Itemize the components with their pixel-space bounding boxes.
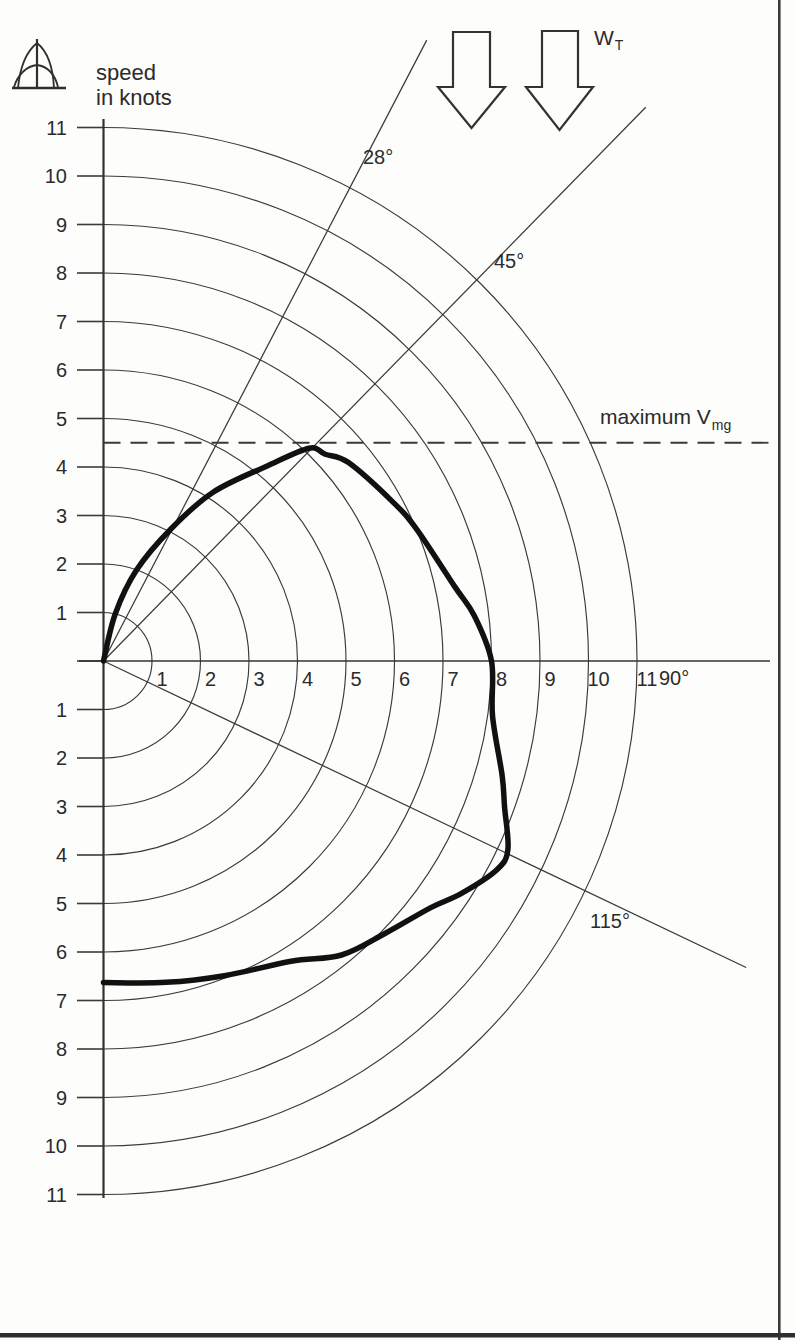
radial-tick-label-90deg: 3 bbox=[253, 668, 264, 690]
radial-tick-label-down: 9 bbox=[56, 1087, 67, 1109]
radial-tick-label-down: 4 bbox=[56, 844, 67, 866]
radial-tick-label-up: 9 bbox=[56, 214, 67, 236]
radial-tick-label-up: 11 bbox=[46, 117, 67, 139]
angle-guide-line-45 bbox=[104, 107, 646, 661]
angle-label-28: 28° bbox=[363, 146, 393, 169]
radial-tick-label-up: 8 bbox=[56, 262, 67, 284]
wind-arrow-icon bbox=[526, 31, 593, 130]
angle-label-115: 115° bbox=[590, 910, 630, 933]
radial-tick-label-90deg: 10 bbox=[587, 668, 609, 690]
angle-label-45: 45° bbox=[494, 250, 524, 273]
radial-tick-label-down: 6 bbox=[56, 941, 67, 963]
radial-tick-label-90deg: 2 bbox=[205, 668, 216, 690]
angle-guide-line-115 bbox=[104, 661, 747, 968]
page-right-edge bbox=[778, 0, 781, 1340]
radial-tick-label-up: 10 bbox=[45, 165, 67, 187]
max-vmg-text: maximum V bbox=[600, 405, 711, 428]
angle-label-90: 90° bbox=[659, 667, 689, 690]
axis-title-line2: in knots bbox=[96, 85, 172, 110]
true-wind-label: WT bbox=[594, 26, 622, 50]
radial-tick-label-down: 8 bbox=[56, 1038, 67, 1060]
angle-guide-line-28 bbox=[104, 40, 427, 661]
radial-tick-label-90deg: 6 bbox=[399, 668, 410, 690]
radial-tick-label-down: 1 bbox=[56, 699, 67, 721]
radial-tick-label-90deg: 8 bbox=[496, 668, 507, 690]
true-wind-direction-arrows bbox=[438, 31, 593, 130]
radial-tick-label-down: 10 bbox=[45, 1135, 67, 1157]
polar-grid-layer: 111098765432112345678910111234567891011 bbox=[45, 40, 772, 1205]
radial-tick-label-up: 2 bbox=[56, 553, 67, 575]
true-wind-subscript: T bbox=[615, 37, 624, 53]
radial-tick-label-90deg: 7 bbox=[447, 668, 458, 690]
scanned-page: 111098765432112345678910111234567891011 … bbox=[0, 0, 795, 1340]
radial-tick-label-90deg: 9 bbox=[544, 668, 555, 690]
radial-tick-label-down: 5 bbox=[56, 893, 67, 915]
wind-arrow-icon bbox=[438, 32, 505, 128]
sailboat-bow-view-icon bbox=[12, 39, 66, 88]
radial-tick-label-up: 7 bbox=[56, 311, 67, 333]
radial-axis-title: speed in knots bbox=[96, 60, 172, 110]
radial-tick-label-down: 7 bbox=[56, 990, 67, 1012]
max-vmg-subscript: mg bbox=[712, 417, 731, 433]
radial-tick-label-up: 5 bbox=[56, 408, 67, 430]
radial-tick-label-up: 6 bbox=[56, 359, 67, 381]
radial-tick-label-down: 2 bbox=[56, 747, 67, 769]
radial-tick-label-90deg: 1 bbox=[156, 668, 167, 690]
axis-title-line1: speed bbox=[96, 60, 172, 85]
true-wind-symbol: W bbox=[594, 26, 614, 49]
radial-tick-label-down: 11 bbox=[46, 1184, 67, 1206]
radial-tick-label-90deg: 4 bbox=[302, 668, 313, 690]
radial-tick-label-90deg: 5 bbox=[350, 668, 361, 690]
radial-tick-label-down: 3 bbox=[56, 796, 67, 818]
radial-tick-label-90deg: 11 bbox=[637, 668, 658, 690]
page-bottom-edge bbox=[0, 1333, 795, 1338]
radial-tick-label-up: 4 bbox=[56, 456, 67, 478]
radial-tick-label-up: 3 bbox=[56, 505, 67, 527]
radial-tick-label-up: 1 bbox=[56, 602, 67, 624]
max-vmg-label: maximum Vmg bbox=[600, 405, 730, 429]
